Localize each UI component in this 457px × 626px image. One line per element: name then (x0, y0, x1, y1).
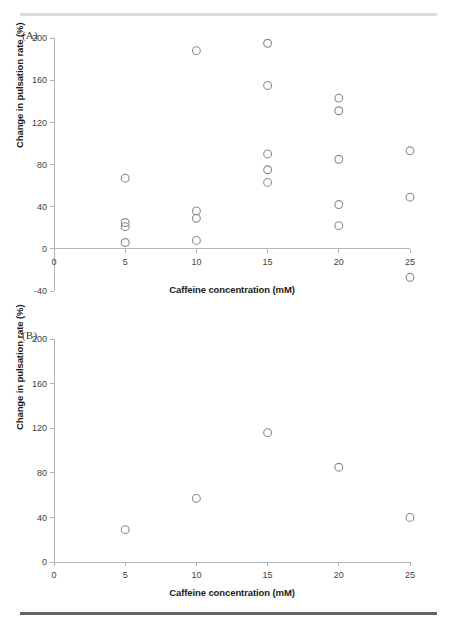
y-tick-label: 0 (42, 244, 47, 254)
x-tick-label: 20 (334, 257, 344, 267)
data-point-marker (335, 155, 343, 163)
y-tick-label: 200 (32, 334, 47, 344)
data-point-marker (264, 429, 272, 437)
x-tick-label: 25 (405, 570, 415, 580)
data-point-marker (193, 495, 201, 503)
data-point-marker (264, 166, 272, 174)
y-tick-label: 160 (32, 379, 47, 389)
figure-page: (A) Change in pulsation rate (%) Caffein… (0, 0, 457, 626)
data-point-marker (406, 514, 414, 522)
x-tick-label: 5 (123, 257, 128, 267)
chart-panel-a: (A) Change in pulsation rate (%) Caffein… (0, 25, 457, 310)
x-tick-label: 25 (405, 257, 415, 267)
x-tick-label: 0 (51, 257, 56, 267)
y-tick-label: 120 (32, 423, 47, 433)
y-tick-label: -40 (34, 286, 47, 296)
data-point-marker (193, 237, 201, 245)
data-point-marker (335, 201, 343, 209)
chart-panel-b: (B) Change in pulsation rate (%) Caffein… (0, 325, 457, 610)
data-point-marker (406, 193, 414, 201)
data-point-marker (335, 222, 343, 230)
x-tick-label: 15 (263, 257, 273, 267)
data-point-marker (121, 239, 129, 247)
data-point-marker (406, 147, 414, 155)
x-tick-label: 0 (51, 570, 56, 580)
top-divider-rule (20, 13, 437, 16)
data-point-marker (264, 150, 272, 158)
data-point-marker (335, 94, 343, 102)
data-point-marker (264, 39, 272, 47)
data-point-marker (193, 47, 201, 55)
x-tick-label: 10 (191, 570, 201, 580)
data-point-marker (335, 107, 343, 115)
y-tick-label: 80 (37, 468, 47, 478)
bottom-divider-rule (20, 612, 437, 615)
scatter-plot-a: -40040801201602000510152025 (0, 25, 457, 310)
data-point-marker (121, 526, 129, 534)
y-tick-label: 160 (32, 75, 47, 85)
scatter-plot-b: 040801201602000510152025 (0, 325, 457, 610)
y-tick-label: 40 (37, 513, 47, 523)
data-point-marker (264, 179, 272, 187)
data-point-marker (264, 82, 272, 90)
x-tick-label: 20 (334, 570, 344, 580)
x-tick-label: 15 (263, 570, 273, 580)
x-tick-label: 5 (123, 570, 128, 580)
y-tick-label: 0 (42, 557, 47, 567)
data-point-marker (193, 207, 201, 215)
x-tick-label: 10 (191, 257, 201, 267)
data-point-marker (406, 273, 414, 281)
data-point-marker (121, 174, 129, 182)
data-point-marker (335, 463, 343, 471)
data-point-marker (193, 214, 201, 222)
y-tick-label: 40 (37, 202, 47, 212)
y-tick-label: 80 (37, 160, 47, 170)
y-tick-label: 200 (32, 33, 47, 43)
y-tick-label: 120 (32, 118, 47, 128)
